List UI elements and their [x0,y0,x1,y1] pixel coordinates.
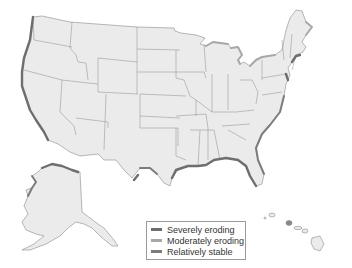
contiguous-us [22,10,312,186]
legend-item-severely-eroding: Severely eroding [151,224,241,235]
legend-label: Moderately eroding [167,236,244,246]
legend-item-relatively-stable: Relatively stable [151,246,241,257]
legend-label: Severely eroding [167,225,235,235]
severe-swatch [151,228,162,231]
legend-label: Relatively stable [167,247,233,257]
moderate-swatch [151,239,162,242]
alaska [22,164,118,250]
hawaii [264,213,324,251]
map-legend: Severely eroding Moderately eroding Rela… [146,221,246,260]
stable-swatch [151,250,162,253]
legend-item-moderately-eroding: Moderately eroding [151,235,241,246]
